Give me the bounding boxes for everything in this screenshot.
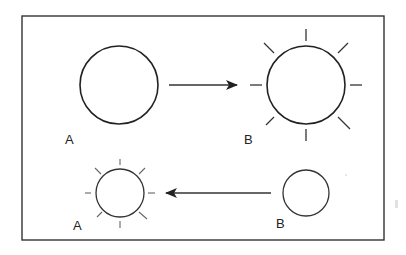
bottom-circle-b [283,170,329,216]
label-bottom-b: B [276,216,285,231]
label-top-b: B [244,132,253,147]
top-circle-b-radiating [250,29,362,141]
top-circle-a [80,46,158,124]
bottom-circle-a-radiating [85,159,155,228]
diagram-canvas [0,0,406,255]
label-bottom-a: A [73,218,82,233]
scan-speck [345,174,347,176]
label-top-a: A [65,132,74,147]
scan-mark [395,200,398,208]
diagram-frame [22,16,384,240]
